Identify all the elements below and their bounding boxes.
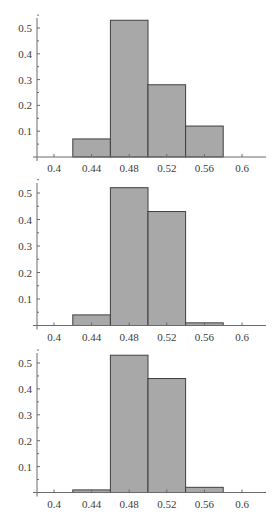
histogram-panel-1: 0.10.20.30.40.50.40.440.480.520.560.6 — [18, 15, 266, 174]
y-tick-label: 0.4 — [18, 214, 32, 226]
x-tick-label: 0.44 — [82, 498, 102, 510]
x-tick-label: 0.44 — [82, 162, 102, 174]
y-tick-label: 0.3 — [18, 409, 32, 421]
histogram-panel-2: 0.10.20.30.40.50.40.440.480.520.560.6 — [18, 180, 266, 343]
histogram-bar — [148, 85, 186, 157]
x-tick-label: 0.56 — [195, 331, 215, 343]
x-tick-label: 0.52 — [157, 331, 176, 343]
x-tick-label: 0.52 — [157, 498, 176, 510]
x-tick-label: 0.56 — [195, 162, 215, 174]
histogram-bar — [110, 188, 148, 326]
y-tick-label: 0.3 — [18, 74, 32, 86]
x-tick-label: 0.56 — [195, 498, 215, 510]
x-tick-label: 0.48 — [120, 162, 140, 174]
x-tick-label: 0.48 — [120, 331, 140, 343]
y-tick-label: 0.5 — [18, 22, 32, 34]
histogram-bar — [148, 379, 186, 493]
x-tick-label: 0.48 — [120, 498, 140, 510]
x-tick-label: 0.52 — [157, 162, 176, 174]
y-tick-label: 0.2 — [18, 435, 32, 447]
x-tick-label: 0.6 — [235, 498, 249, 510]
x-tick-label: 0.44 — [82, 331, 102, 343]
histogram-panel-3: 0.10.20.30.40.50.40.440.480.520.560.6 — [18, 350, 266, 509]
y-tick-label: 0.1 — [18, 461, 32, 473]
histogram-figure: 0.10.20.30.40.50.40.440.480.520.560.6 0.… — [0, 0, 279, 525]
x-tick-label: 0.6 — [235, 331, 249, 343]
x-tick-label: 0.4 — [47, 331, 61, 343]
histogram-bar — [148, 212, 186, 326]
y-tick-label: 0.4 — [18, 383, 32, 395]
y-tick-label: 0.1 — [18, 293, 32, 305]
y-tick-label: 0.5 — [18, 187, 32, 199]
y-tick-label: 0.2 — [18, 99, 32, 111]
histogram-bar — [110, 20, 148, 157]
y-tick-label: 0.4 — [18, 48, 32, 60]
y-tick-label: 0.1 — [18, 125, 32, 137]
y-tick-label: 0.3 — [18, 240, 32, 252]
y-tick-label: 0.5 — [18, 357, 32, 369]
x-tick-label: 0.4 — [47, 498, 61, 510]
histogram-bar — [186, 126, 224, 157]
x-tick-label: 0.4 — [47, 162, 61, 174]
histogram-bar — [110, 355, 148, 492]
x-tick-label: 0.6 — [235, 162, 249, 174]
y-tick-label: 0.2 — [18, 267, 32, 279]
